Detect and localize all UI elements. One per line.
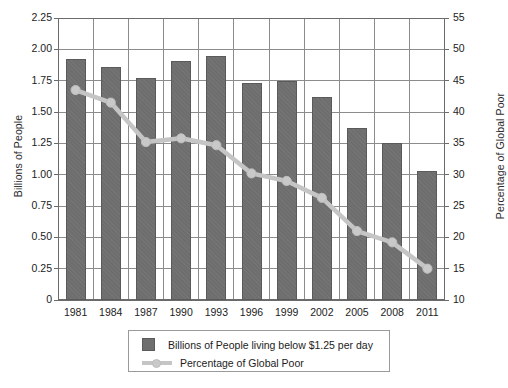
y-axis-left-tick-2.25: 2.25 [12, 11, 52, 23]
y-axis-right-tick-55: 55 [453, 11, 493, 23]
y-axis-right-tick-50: 50 [453, 42, 493, 54]
line-point-2002 [317, 193, 326, 202]
line-point-1987 [141, 137, 150, 146]
x-axis-tick-2011: 2011 [405, 306, 449, 318]
y-axis-right-tick-35: 35 [453, 136, 493, 148]
line-point-1990 [177, 134, 186, 143]
y-axis-right-tick-45: 45 [453, 74, 493, 86]
chart-container: Billions of People Percentage of Global … [0, 0, 508, 388]
y-axis-left-tick-0.75: 0.75 [12, 199, 52, 211]
line-point-1999 [282, 176, 291, 185]
legend-line-marker-icon [142, 356, 172, 369]
legend-bar-swatch-icon [142, 338, 155, 351]
y-axis-left-tick-1.00: 1.00 [12, 168, 52, 180]
y-axis-left-tick-0.50: 0.50 [12, 230, 52, 242]
y-axis-left-tick-1.75: 1.75 [12, 74, 52, 86]
line-point-1996 [247, 169, 256, 178]
y-axis-left-tick-1.25: 1.25 [12, 136, 52, 148]
line-point-1981 [71, 85, 80, 94]
y-axis-left-tick-2.00: 2.00 [12, 42, 52, 54]
legend-label-bars: Billions of People living below $1.25 pe… [168, 339, 373, 351]
legend-item-bars: Billions of People living below $1.25 pe… [142, 338, 373, 351]
line-point-1993 [212, 141, 221, 150]
y-axis-right-tick-25: 25 [453, 199, 493, 211]
y-axis-right-tick-15: 15 [453, 262, 493, 274]
y-axis-right-tick-10: 10 [453, 293, 493, 305]
y-axis-left-tick-0: 0 [12, 293, 52, 305]
y-axis-right-tick-40: 40 [453, 105, 493, 117]
y-axis-left-tick-0.25: 0.25 [12, 262, 52, 274]
y-axis-right-tick-20: 20 [453, 230, 493, 242]
legend-label-line: Percentage of Global Poor [180, 357, 304, 369]
line-point-1984 [106, 98, 115, 107]
chart-legend: Billions of People living below $1.25 pe… [128, 330, 390, 372]
y-axis-left-tick-1.50: 1.50 [12, 105, 52, 117]
line-point-2011 [423, 264, 432, 273]
y-axis-right-tick-30: 30 [453, 168, 493, 180]
legend-item-line: Percentage of Global Poor [142, 356, 304, 369]
line-point-2005 [352, 226, 361, 235]
line-point-2008 [388, 238, 397, 247]
